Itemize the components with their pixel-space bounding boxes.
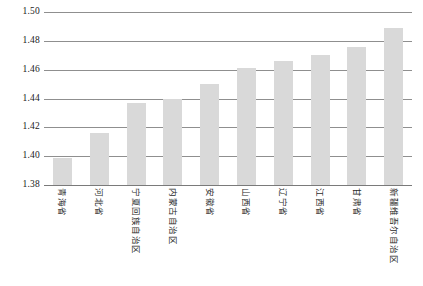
x-tick: 河北省 (92, 188, 106, 284)
x-axis-tick-labels: 青海省河北省宁夏回族自治区内蒙古自治区安徽省山西省辽宁省江西省甘肃省新疆维吾尔自… (44, 188, 412, 286)
x-tick-label: 山西省 (242, 188, 251, 217)
y-tick-label: 1.42 (0, 122, 40, 132)
bar (384, 28, 403, 185)
bar (90, 133, 109, 185)
bar (53, 158, 72, 185)
x-tick-label: 安徽省 (205, 188, 214, 217)
bar (237, 68, 256, 185)
y-tick-label: 1.40 (0, 151, 40, 161)
bar (163, 99, 182, 186)
x-tick-label: 河北省 (95, 188, 104, 217)
gridline (44, 12, 412, 13)
plot-area (44, 12, 412, 185)
x-tick-label: 宁夏回族自治区 (132, 188, 141, 255)
y-tick-label: 1.48 (0, 36, 40, 46)
x-tick: 安徽省 (203, 188, 217, 284)
gridline (44, 41, 412, 42)
x-tick: 甘肃省 (350, 188, 364, 284)
x-tick-label: 辽宁省 (279, 188, 288, 217)
bar (347, 47, 366, 185)
x-tick: 宁夏回族自治区 (129, 188, 143, 284)
x-tick: 辽宁省 (276, 188, 290, 284)
bar (127, 103, 146, 185)
x-tick-label: 新疆维吾尔自治区 (389, 188, 398, 264)
x-tick: 内蒙古自治区 (166, 188, 180, 284)
x-tick-label: 青海省 (58, 188, 67, 217)
x-tick: 青海省 (55, 188, 69, 284)
x-tick: 新疆维吾尔自治区 (387, 188, 401, 284)
bar (200, 84, 219, 185)
gridline (44, 185, 412, 186)
x-tick: 江西省 (313, 188, 327, 284)
y-tick-label: 1.46 (0, 65, 40, 75)
x-tick: 山西省 (239, 188, 253, 284)
x-tick-label: 江西省 (316, 188, 325, 217)
x-tick-label: 甘肃省 (353, 188, 362, 217)
y-axis-tick-labels: 1.50 1.48 1.46 1.44 1.42 1.40 1.38 (0, 12, 40, 185)
bar-chart: 1.50 1.48 1.46 1.44 1.42 1.40 1.38 青海省河北… (0, 0, 423, 286)
bar (274, 61, 293, 185)
y-tick-label: 1.44 (0, 94, 40, 104)
x-tick-label: 内蒙古自治区 (169, 188, 178, 245)
bar (311, 55, 330, 185)
y-tick-label: 1.38 (0, 180, 40, 190)
y-tick-label: 1.50 (0, 7, 40, 17)
